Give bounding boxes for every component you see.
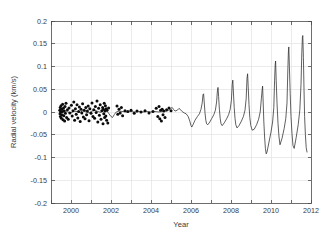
observation-point: [99, 103, 102, 106]
observation-point: [97, 107, 100, 110]
observation-point: [119, 111, 122, 114]
observation-point: [68, 106, 71, 109]
observation-point: [93, 117, 96, 120]
observation-point: [80, 108, 83, 111]
y-tick-label: 0: [43, 108, 47, 117]
observation-point: [162, 110, 165, 113]
observation-point: [84, 117, 87, 120]
x-tick-label: 2010: [263, 206, 279, 215]
observation-point: [85, 113, 88, 116]
observation-point: [88, 107, 91, 110]
observation-point: [165, 108, 168, 111]
observation-point: [76, 103, 79, 106]
y-tick-label: 0.2: [37, 17, 47, 26]
x-axis-title: Year: [173, 220, 189, 229]
observation-point: [162, 113, 165, 116]
observation-point: [75, 113, 78, 116]
observation-point: [104, 115, 107, 118]
chart-background: [0, 0, 336, 245]
observation-point: [98, 114, 101, 117]
observation-point: [87, 105, 90, 108]
observation-point: [74, 107, 77, 110]
observation-point: [94, 105, 97, 108]
y-tick-label: -0.15: [31, 176, 47, 185]
observation-point: [83, 109, 86, 112]
x-tick-label: 2004: [143, 206, 159, 215]
observation-point: [76, 116, 79, 119]
observation-point: [67, 118, 70, 121]
observation-point: [102, 122, 105, 125]
observation-point: [133, 112, 136, 115]
x-tick-label: 2012: [303, 206, 319, 215]
observation-point: [70, 104, 73, 107]
observation-point: [90, 112, 93, 115]
radial-velocity-chart: 2000200220042006200820102012 -0.2-0.15-0…: [0, 0, 336, 245]
observation-point: [71, 115, 74, 118]
observation-point: [100, 118, 103, 121]
observation-point: [68, 111, 71, 114]
observation-point: [106, 121, 109, 124]
observation-point: [73, 119, 76, 122]
x-tick-label: 2008: [223, 206, 239, 215]
observation-point: [148, 111, 151, 114]
observation-point: [79, 120, 82, 123]
observation-point: [65, 102, 68, 105]
observation-point: [91, 101, 94, 104]
observation-point: [155, 107, 158, 110]
x-tick-label: 2000: [63, 206, 79, 215]
y-tick-label: 0.05: [33, 85, 47, 94]
y-tick-label: -0.2: [35, 199, 47, 208]
observation-point: [144, 109, 147, 112]
y-tick-label: 0.1: [37, 62, 47, 71]
observation-point: [92, 108, 95, 111]
observation-point: [80, 111, 83, 114]
observation-point: [104, 104, 107, 107]
y-tick-label: -0.05: [31, 130, 47, 139]
observation-point: [130, 109, 133, 112]
observation-point: [160, 120, 163, 123]
observation-point: [96, 100, 99, 103]
observation-point: [63, 120, 66, 123]
observation-point: [61, 103, 64, 106]
observation-point: [136, 110, 139, 113]
observation-point: [72, 109, 75, 112]
observation-point: [105, 119, 108, 122]
observation-point: [168, 106, 171, 109]
observation-point: [140, 111, 143, 114]
observation-point: [86, 110, 89, 113]
observation-point: [64, 112, 67, 115]
observation-point: [124, 109, 127, 112]
observation-point: [72, 100, 75, 103]
x-tick-label: 2006: [183, 206, 199, 215]
observation-point: [156, 115, 159, 118]
observation-point: [96, 121, 99, 124]
x-tick-label: 2002: [103, 206, 119, 215]
observation-point: [121, 114, 124, 117]
observation-point: [81, 102, 84, 105]
observation-point: [77, 110, 80, 113]
observation-point: [170, 109, 173, 112]
observation-point: [152, 110, 155, 113]
observation-point: [158, 105, 161, 108]
observation-point: [95, 111, 98, 114]
observation-point: [102, 112, 105, 115]
y-axis-title: Radial velocity (km/s): [9, 75, 18, 148]
observation-point: [118, 108, 121, 111]
observation-point: [120, 106, 123, 109]
observation-point: [88, 119, 91, 122]
y-tick-label: -0.1: [35, 153, 47, 162]
observation-point: [107, 106, 110, 109]
observation-point: [64, 105, 67, 108]
observation-point: [126, 110, 129, 113]
observation-point: [116, 105, 119, 108]
chart-figure: 2000200220042006200820102012 -0.2-0.15-0…: [0, 0, 336, 245]
y-tick-label: 0.15: [33, 39, 47, 48]
observation-point: [164, 116, 167, 119]
